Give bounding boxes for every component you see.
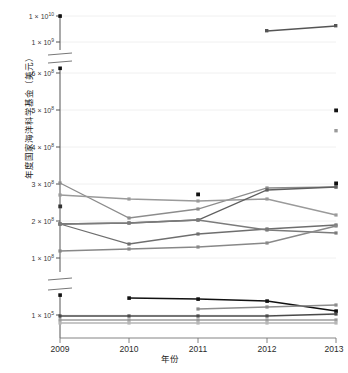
- marker-outlier-2009-bottom: [58, 293, 62, 297]
- marker-outlier-2013-gray: [334, 129, 337, 132]
- data-series-d: [58, 222, 337, 245]
- x-axis-title: 年份: [0, 352, 340, 364]
- data-series-j: [58, 318, 337, 321]
- data-series-h: [196, 303, 337, 310]
- marker-outlier-2009-mid: [58, 205, 62, 209]
- y-axis-spine-main: [56, 70, 60, 272]
- data-series-f: [58, 224, 337, 252]
- marker-outlier-2013-mid: [334, 182, 338, 186]
- data-series-b: [58, 193, 337, 216]
- x-axis-spine: [60, 338, 336, 343]
- data-series-g: [127, 296, 338, 313]
- marker-outlier-2009-high: [58, 67, 62, 71]
- marker-outlier-2011-mid: [196, 193, 200, 197]
- marker-outlier-2009-top: [58, 14, 62, 18]
- axis-break-lower: [48, 278, 72, 290]
- data-series-top-a: [265, 24, 337, 32]
- y-axis-spine-top: [56, 14, 60, 50]
- ytick-label-bottom-0: 1 × 105: [4, 310, 54, 319]
- gridlines-main-panel: [60, 73, 336, 258]
- y-axis-title: 年度国家海洋科学基金（美元）: [22, 36, 34, 196]
- ytick-label-main-5: 1 × 108: [4, 253, 54, 262]
- ytick-label-top-0: 1 × 1010: [4, 11, 54, 20]
- marker-outlier-2013-high: [334, 109, 338, 113]
- data-series-k: [58, 321, 337, 324]
- ytick-label-main-4: 2 × 108: [4, 216, 54, 225]
- axis-break-upper: [48, 53, 72, 63]
